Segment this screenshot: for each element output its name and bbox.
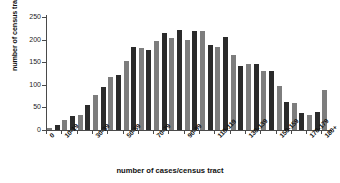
bar [269,71,274,130]
x-tick-mark [138,131,139,134]
y-tick-mark [42,85,46,86]
bar [108,77,113,130]
x-tick-mark [291,131,292,134]
y-tick-mark [42,62,46,63]
y-tick-label: 0 [0,126,41,133]
bar [146,50,151,130]
bar-series [47,17,331,130]
bar [139,48,144,130]
y-tick-mark [42,107,46,108]
x-tick-mark [107,131,108,134]
y-tick-label: 100 [0,81,41,88]
bar [47,128,52,130]
histogram-chart: number of census tracts 050100150200250 … [0,0,340,183]
bar [116,75,121,130]
bar [215,47,220,130]
bar [200,31,205,130]
x-tick-label: 0 [48,131,56,139]
x-tick-mark [230,131,231,134]
bar [131,47,136,130]
bar [223,37,228,130]
x-tick-mark [260,131,261,134]
bar [246,64,251,130]
bar [238,66,243,130]
y-tick-mark [42,40,46,41]
bar [55,125,60,130]
bar [169,38,174,130]
bar [277,86,282,130]
x-tick-mark [184,131,185,134]
bar [192,31,197,130]
x-tick-mark [168,131,169,134]
y-tick-label: 200 [0,36,41,43]
x-axis-title: number of cases/census tract [0,166,340,175]
y-tick-label: 250 [0,13,41,20]
bar [85,105,90,130]
bar [93,95,98,130]
bar [208,45,213,130]
bar [124,61,129,130]
bar [154,41,159,130]
y-tick-label: 50 [0,103,41,110]
y-tick-label: 150 [0,58,41,65]
y-tick-mark [42,17,46,18]
bar [177,30,182,130]
bar [307,115,312,130]
x-tick-mark [276,131,277,134]
bar [185,40,190,130]
x-tick-mark [123,131,124,134]
x-tick-mark [199,131,200,134]
x-tick-mark [77,131,78,134]
bar [162,33,167,130]
bar [254,64,259,130]
